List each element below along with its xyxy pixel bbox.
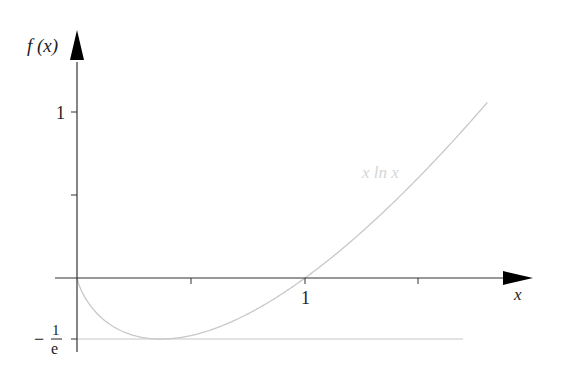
neg-sign: −	[34, 329, 44, 349]
curve-label: x ln x	[361, 163, 399, 182]
y-axis-label: f (x)	[27, 35, 58, 57]
x-tick-label-1: 1	[301, 288, 310, 308]
x-axis-arrow-icon	[503, 271, 533, 285]
fraction-denominator: e	[51, 340, 58, 357]
curve-x-ln-x	[77, 102, 487, 339]
function-plot: f (x) x 1 1 − 1 e x ln x	[0, 0, 566, 376]
y-tick-label-1: 1	[56, 103, 65, 123]
x-axis-label: x	[513, 285, 522, 304]
fraction-numerator: 1	[52, 322, 60, 338]
y-axis-arrow-icon	[70, 30, 84, 60]
